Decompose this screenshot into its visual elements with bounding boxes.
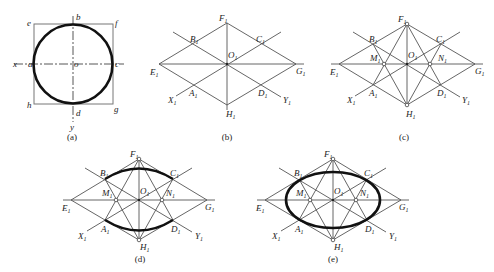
diagram-canvas: e b f x a o c h d g y (a) F1 B1 C1 O1 E1… — [0, 0, 494, 272]
label-E1: E1 — [149, 67, 159, 78]
center-point — [332, 199, 334, 201]
label-D1: D1 — [364, 224, 375, 235]
center-point — [138, 199, 140, 201]
panel-a: e b f x a o c h d g y (a) — [12, 12, 124, 142]
label-C1: C1 — [364, 168, 373, 179]
label-H1: H1 — [225, 109, 236, 120]
label-f: f — [115, 18, 119, 28]
label-Y1: Y1 — [389, 231, 397, 242]
label-O1: O1 — [228, 50, 238, 61]
label-X1: X1 — [271, 231, 281, 242]
caption-d: (d) — [135, 254, 146, 264]
panel-e: F1 B1 C1 O1 M1 N1 E1 G1 X1 A1 D1 Y1 H1 (… — [255, 149, 409, 264]
label-N1: N1 — [437, 53, 447, 64]
caption-e: (e) — [328, 254, 338, 264]
label-D1: D1 — [436, 88, 447, 99]
label-e: e — [27, 18, 31, 28]
label-X1: X1 — [167, 95, 177, 106]
label-G1: G1 — [475, 66, 485, 77]
label-F1: F1 — [129, 149, 139, 160]
label-X1: X1 — [346, 95, 356, 106]
line-H1-B1 — [373, 44, 407, 105]
label-B1: B1 — [294, 168, 303, 179]
label-N1: N1 — [165, 188, 175, 199]
label-g: g — [114, 104, 119, 114]
label-E1: E1 — [329, 67, 339, 78]
label-N1: N1 — [359, 188, 369, 199]
label-A1: A1 — [188, 88, 198, 99]
line-H1-B1 — [299, 179, 333, 240]
label-B1: B1 — [100, 168, 109, 179]
label-h: h — [27, 100, 32, 110]
label-O1: O1 — [408, 50, 418, 61]
label-G1: G1 — [296, 66, 306, 77]
label-C1: C1 — [256, 34, 265, 45]
point-M1 — [382, 62, 386, 66]
label-F1: F1 — [218, 13, 228, 24]
label-D1: D1 — [170, 224, 181, 235]
label-y: y — [69, 122, 74, 132]
point-N1 — [160, 198, 164, 202]
label-Y1: Y1 — [195, 231, 203, 242]
label-A1: A1 — [100, 224, 110, 235]
label-C1: C1 — [436, 34, 445, 45]
label-D1: D1 — [257, 88, 268, 99]
caption-c: (c) — [399, 132, 409, 142]
center-point — [226, 63, 228, 65]
caption-a: (a) — [67, 132, 77, 142]
panel-c: F1 B1 C1 O1 M1 N1 E1 G1 X1 A1 D1 Y1 H1 (… — [329, 14, 485, 142]
point-N1 — [354, 198, 358, 202]
panel-d: F1 B1 C1 O1 M1 N1 E1 G1 X1 A1 D1 Y1 H1 (… — [61, 149, 215, 264]
label-H1: H1 — [333, 242, 344, 253]
label-G1: G1 — [399, 202, 409, 213]
label-F1: F1 — [323, 149, 333, 160]
label-Y1: Y1 — [462, 95, 470, 106]
label-O1: O1 — [140, 186, 150, 197]
point-M1 — [114, 198, 118, 202]
panel-b: F1 B1 C1 O1 E1 G1 X1 A1 D1 Y1 H1 (b) — [149, 13, 306, 142]
label-A1: A1 — [368, 88, 378, 99]
label-c: c — [115, 59, 119, 69]
label-C1: C1 — [170, 168, 179, 179]
label-a: a — [28, 59, 33, 69]
point-M1 — [308, 198, 312, 202]
label-Y1: Y1 — [283, 95, 291, 106]
label-o: o — [74, 59, 79, 69]
label-F1: F1 — [397, 14, 407, 25]
label-E1: E1 — [255, 203, 265, 214]
label-H1: H1 — [139, 242, 150, 253]
caption-b: (b) — [222, 132, 233, 142]
label-A1: A1 — [294, 224, 304, 235]
point-N1 — [428, 62, 432, 66]
label-X1: X1 — [77, 231, 87, 242]
line-F1-A1 — [299, 159, 333, 220]
label-B1: B1 — [369, 34, 378, 45]
line-F1-A1 — [373, 24, 407, 85]
point-H1 — [405, 103, 409, 107]
center-point — [406, 63, 408, 65]
label-G1: G1 — [205, 202, 215, 213]
label-E1: E1 — [61, 203, 71, 214]
label-H1: H1 — [405, 109, 416, 120]
label-d: d — [76, 108, 81, 118]
label-B1: B1 — [190, 34, 199, 45]
label-O1: O1 — [334, 186, 344, 197]
label-b: b — [76, 12, 81, 22]
label-x: x — [12, 59, 17, 69]
